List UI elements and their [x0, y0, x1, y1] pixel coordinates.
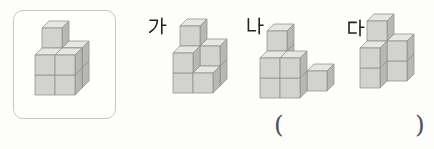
answer-paren-close: )	[415, 111, 425, 139]
option-label-ga	[147, 16, 167, 36]
option-cube-figure-ga	[169, 17, 253, 101]
option-cube-figure-da	[356, 12, 434, 96]
cube-comparison-exercise: ( )	[0, 0, 434, 149]
reference-cube-figure	[31, 19, 115, 103]
option-cube-figure-na	[256, 22, 340, 106]
answer-paren-open: (	[274, 111, 284, 139]
